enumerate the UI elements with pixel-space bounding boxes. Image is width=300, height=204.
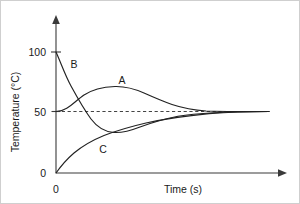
curve-label-c: C	[99, 143, 107, 155]
curve-label-a: A	[118, 74, 125, 86]
y-tick-label-0: 0	[40, 167, 46, 179]
y-axis-arrow-icon	[52, 15, 60, 24]
x-axis-title: Time (s)	[164, 183, 202, 195]
curve-c	[56, 112, 269, 174]
chart-canvas: 100 50 0 0 B A C Time (s) Temperature (°…	[1, 1, 300, 204]
temperature-time-chart: 100 50 0 0 B A C Time (s) Temperature (°…	[0, 0, 300, 204]
x-tick-label-0: 0	[53, 183, 59, 195]
curve-label-b: B	[70, 58, 77, 70]
y-tick-label-50: 50	[34, 106, 46, 118]
x-axis-arrow-icon	[278, 169, 287, 177]
curve-a	[56, 86, 269, 111]
y-tick-label-100: 100	[28, 46, 46, 58]
y-axis-title: Temperature (°C)	[9, 72, 21, 153]
